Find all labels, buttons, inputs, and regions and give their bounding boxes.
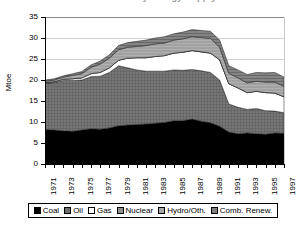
legend-item-coal[interactable]: Coal (34, 207, 59, 215)
y-axis: 35 30 25 20 15 10 5 0 Mtoe (0, 0, 45, 182)
legend-item-nuclear[interactable]: Nuclear (117, 207, 154, 215)
legend-label: Nuclear (126, 207, 154, 215)
x-tick-mark (82, 165, 83, 168)
chart-title-clipped: Total Primary Energy Supply (0, 0, 305, 2)
x-tick-mark (174, 165, 175, 168)
stacked-area-plot (45, 17, 285, 165)
plot-left-axis (45, 17, 46, 165)
legend-item-hydro[interactable]: Hydro/Oth. (158, 207, 206, 215)
x-tick-mark (91, 165, 92, 168)
x-tick-mark (192, 165, 193, 168)
x-axis-labels: 1971197319751977197919811983198519871989… (0, 169, 305, 197)
x-tick-mark (256, 165, 257, 168)
x-tick-mark (137, 165, 138, 168)
legend-swatch-icon (34, 207, 41, 214)
x-tick-mark (128, 165, 129, 168)
x-tick-mark (100, 165, 101, 168)
legend-label: Comb. Renew. (220, 207, 272, 215)
y-tick-label: 5 (4, 139, 38, 147)
legend-swatch-icon (88, 207, 95, 214)
page-title: Total Primary Energy Supply (0, 0, 305, 2)
legend-item-oil[interactable]: Oil (64, 207, 83, 215)
x-tick-mark (238, 165, 239, 168)
x-tick-mark (201, 165, 202, 168)
legend-label: Gas (97, 207, 112, 215)
x-tick-mark (54, 165, 55, 168)
x-tick-mark (266, 165, 267, 168)
legend-label: Coal (43, 207, 59, 215)
legend-swatch-icon (211, 207, 218, 214)
x-tick-mark (220, 165, 221, 168)
y-tick-label: 0 (4, 160, 38, 168)
x-tick-mark (165, 165, 166, 168)
legend-label: Hydro/Oth. (167, 207, 206, 215)
legend-swatch-icon (64, 207, 71, 214)
x-tick-label: 1997 (288, 186, 305, 195)
x-tick-mark (247, 165, 248, 168)
x-tick-mark (284, 165, 285, 168)
x-tick-mark (229, 165, 230, 168)
y-tick-label: 10 (4, 118, 38, 126)
x-tick-mark (211, 165, 212, 168)
legend-swatch-icon (117, 207, 124, 214)
y-axis-title: Mtoe (4, 63, 13, 103)
x-tick-mark (119, 165, 120, 168)
x-tick-mark (63, 165, 64, 168)
legend-item-comb-renew[interactable]: Comb. Renew. (211, 207, 272, 215)
chart-legend: Coal Oil Gas Nuclear Hydro/Oth. Comb. Re… (28, 203, 278, 218)
legend-item-gas[interactable]: Gas (88, 207, 112, 215)
y-tick-label: 35 (4, 13, 38, 21)
plot-top-border (45, 17, 285, 18)
x-tick-mark (275, 165, 276, 168)
x-tick-mark (109, 165, 110, 168)
chart-root: Total Primary Energy Supply 35 30 25 20 … (0, 0, 305, 227)
plot-right-border (284, 17, 285, 165)
legend-label: Oil (73, 207, 83, 215)
x-tick-mark (155, 165, 156, 168)
x-tick-mark (73, 165, 74, 168)
x-tick-mark (146, 165, 147, 168)
legend-swatch-icon (158, 207, 165, 214)
plot-area (45, 17, 285, 165)
x-tick-mark (183, 165, 184, 168)
y-tick-label: 30 (4, 34, 38, 42)
x-tick-mark (45, 165, 46, 168)
